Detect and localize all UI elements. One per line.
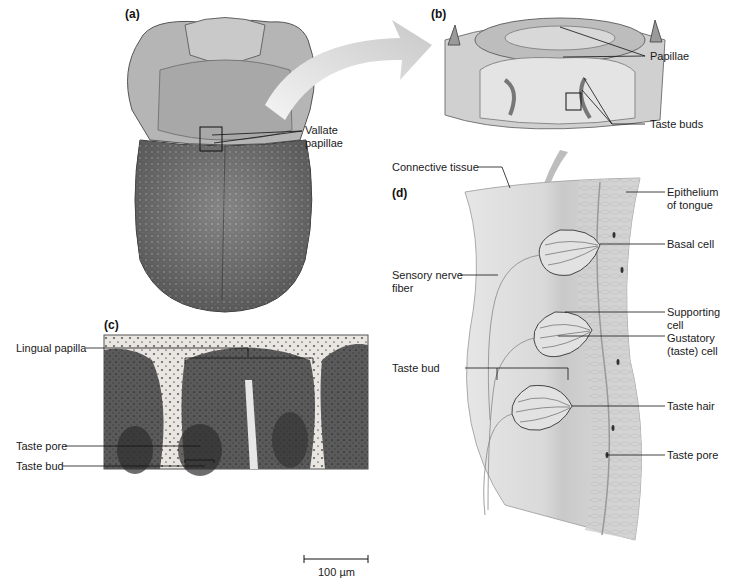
label-taste-pore-d: Taste pore — [667, 449, 718, 462]
label-epithelium: Epithelium of tongue — [667, 186, 718, 212]
label-vallate-papillae: Vallate papillae — [305, 124, 343, 150]
papilla-cross-section — [445, 18, 665, 129]
label-basal-cell: Basal cell — [667, 238, 714, 251]
panel-label-d: (d) — [392, 186, 407, 200]
label-connective-tissue: Connective tissue — [392, 161, 479, 174]
label-papillae: Papillae — [650, 50, 689, 63]
tongue-illustration — [128, 18, 315, 313]
label-taste-bud-d: Taste bud — [392, 362, 440, 375]
label-taste-pore-c: Taste pore — [16, 440, 67, 453]
taste-bud-block — [460, 167, 665, 540]
micrograph — [63, 335, 368, 563]
figure-artwork — [0, 0, 732, 584]
panel-label-b: (b) — [431, 7, 446, 21]
panel-label-c: (c) — [104, 318, 119, 332]
label-supporting-cell: Supporting cell — [667, 306, 720, 332]
label-taste-bud-c: Taste bud — [16, 460, 64, 473]
panel-label-a: (a) — [125, 7, 140, 21]
label-taste-buds-b: Taste buds — [650, 118, 703, 131]
label-lingual-papilla: Lingual papilla — [16, 342, 86, 355]
label-sensory-nerve-fiber: Sensory nerve fiber — [392, 269, 463, 295]
label-taste-hair: Taste hair — [667, 400, 715, 413]
label-gustatory-cell: Gustatory (taste) cell — [667, 332, 718, 358]
scale-bar-label: 100 µm — [318, 566, 355, 579]
